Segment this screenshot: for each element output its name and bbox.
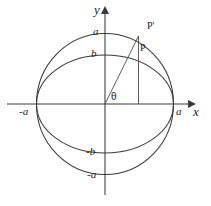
figure-canvas: y x a b -b -a a -a P' P θ	[0, 0, 211, 206]
point-label-p: P	[140, 43, 146, 53]
angle-label-theta: θ	[111, 92, 117, 102]
tick-label-negative-a-left: -a	[19, 106, 28, 117]
tick-label-negative-a-bottom: -a	[87, 169, 96, 180]
tick-label-b-top: b	[91, 48, 97, 59]
tick-label-a-right: a	[176, 106, 182, 117]
y-axis-arrowhead	[101, 6, 109, 14]
y-axis-label: y	[94, 3, 100, 16]
point-label-p-prime: P'	[147, 21, 154, 31]
tick-label-a-top: a	[93, 26, 99, 37]
geometry-svg	[0, 0, 211, 206]
tick-label-negative-b: -b	[86, 146, 95, 157]
x-axis-label: x	[193, 105, 199, 118]
